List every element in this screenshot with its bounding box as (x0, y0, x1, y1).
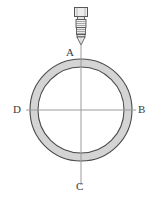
position-label-c: C (76, 181, 83, 192)
position-label-b: B (138, 104, 145, 115)
centerlines-group (26, 44, 136, 185)
probe-neck (78, 17, 85, 20)
diagram-canvas (0, 0, 160, 203)
probe-nozzle-group (75, 8, 88, 46)
position-label-a: A (66, 47, 74, 58)
position-label-d: D (13, 104, 21, 115)
probe-cap-icon (75, 8, 88, 17)
technical-diagram-figure: A B C D (0, 0, 160, 203)
